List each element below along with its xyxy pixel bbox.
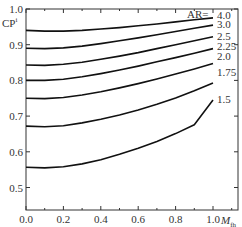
x-tick-label: 0.8	[169, 213, 183, 225]
curve-ar-3.0	[26, 25, 213, 48]
x-tick-label: 0.4	[94, 213, 108, 225]
series-label: 1.5	[217, 93, 231, 105]
chart: 0.50.60.70.80.91.00.00.20.40.60.81.0CPiM…	[0, 0, 242, 227]
x-tick-label: 0.0	[19, 213, 33, 225]
curve-ar-1.5	[26, 100, 213, 168]
y-tick-label: 0.9	[9, 39, 23, 51]
x-tick-label: 0.2	[57, 213, 71, 225]
curve-ar-2.0	[26, 64, 213, 99]
series-label: 1.75	[217, 66, 237, 78]
x-tick-label: 0.6	[131, 213, 145, 225]
y-tick-label: 0.8	[9, 74, 23, 86]
legend-title: AR=	[187, 8, 208, 20]
series-label: 3.0	[217, 18, 231, 30]
y-tick-label: 1.0	[9, 3, 23, 15]
y-tick-label: 0.5	[9, 182, 23, 194]
y-axis-label: CPi	[2, 16, 17, 29]
x-tick-label: 1.0	[206, 213, 220, 225]
x-axis-label: Mfh	[220, 214, 237, 227]
y-tick-label: 0.7	[9, 110, 23, 122]
series-label: 2.0	[217, 50, 231, 62]
curve-ar-1.75	[26, 83, 213, 127]
y-tick-label: 0.6	[9, 146, 23, 158]
